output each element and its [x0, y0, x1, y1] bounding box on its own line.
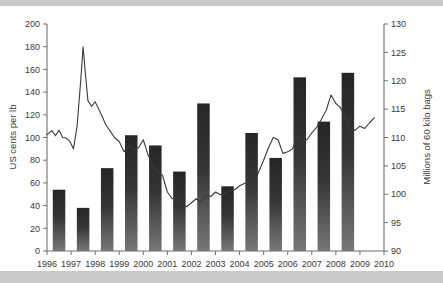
bar-2006 [294, 77, 307, 251]
bar-1999 [125, 135, 138, 251]
bar-1998 [101, 168, 114, 251]
x-axis-ticks: 1996199719981999200020012002200320042005… [37, 251, 394, 269]
x-tick-label: 2001 [157, 259, 177, 269]
x-tick-label: 2009 [350, 259, 370, 269]
chart-page: 020406080100120140160180200 909510010511… [0, 0, 443, 283]
x-tick-label: 1999 [109, 259, 129, 269]
right-axis-title: Millions of 60 kilo bags [421, 89, 432, 185]
bar-2001 [173, 172, 186, 251]
x-tick-label: 1996 [37, 259, 57, 269]
bar-1997 [77, 208, 90, 251]
right-tick-label: 115 [391, 104, 405, 114]
x-tick-label: 2002 [181, 259, 201, 269]
x-tick-label: 2003 [205, 259, 225, 269]
left-tick-label: 120 [25, 110, 40, 120]
x-tick-label: 2010 [374, 259, 394, 269]
x-tick-label: 2008 [326, 259, 346, 269]
axis-lines [47, 24, 384, 251]
x-tick-label: 1998 [85, 259, 105, 269]
bar-2008 [342, 73, 355, 251]
right-tick-label: 105 [391, 161, 406, 171]
x-tick-label: 2006 [278, 259, 298, 269]
left-tick-label: 140 [25, 87, 40, 97]
x-tick-label: 2000 [133, 259, 153, 269]
bar-2004 [245, 133, 257, 251]
coffee-price-production-chart: 020406080100120140160180200 909510010511… [0, 0, 443, 283]
right-tick-label: 125 [391, 48, 406, 58]
left-axis-ticks: 020406080100120140160180200 [25, 19, 47, 256]
x-tick-label: 2007 [302, 259, 322, 269]
bar-2003 [221, 186, 234, 251]
x-tick-label: 2005 [254, 259, 274, 269]
right-tick-label: 100 [391, 189, 406, 199]
x-tick-label: 1997 [61, 259, 81, 269]
left-tick-label: 0 [35, 246, 40, 256]
bar-2005 [269, 158, 282, 251]
left-tick-label: 160 [25, 65, 40, 75]
right-tick-label: 130 [391, 19, 406, 29]
right-tick-label: 120 [391, 76, 406, 86]
bar-series-prices [53, 73, 354, 251]
right-tick-label: 110 [391, 133, 405, 143]
left-tick-label: 200 [25, 19, 40, 29]
left-tick-label: 180 [25, 42, 40, 52]
left-axis-title: US cents per lb [7, 105, 18, 170]
left-tick-label: 80 [30, 155, 40, 165]
bar-1996 [53, 190, 66, 251]
bar-2002 [197, 103, 210, 251]
bar-2007 [318, 122, 331, 251]
x-tick-label: 2004 [230, 259, 250, 269]
left-tick-label: 40 [30, 201, 40, 211]
right-axis-ticks: 9095100105110115120125130 [384, 19, 406, 256]
left-tick-label: 100 [25, 133, 40, 143]
right-tick-label: 95 [391, 218, 401, 228]
left-tick-label: 60 [30, 178, 40, 188]
right-tick-label: 90 [391, 246, 401, 256]
left-tick-label: 20 [30, 224, 40, 234]
